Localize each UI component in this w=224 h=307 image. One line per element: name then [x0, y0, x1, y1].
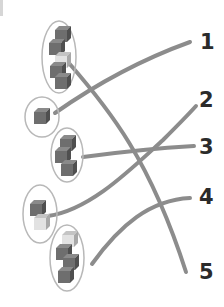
- line-stack-e-to-4[interactable]: [92, 198, 190, 264]
- stack-e-4-cubes[interactable]: [50, 225, 84, 291]
- label-number-5[interactable]: 5: [199, 262, 214, 283]
- stack-c-3-cubes[interactable]: [51, 128, 83, 182]
- stack-b-1-cube[interactable]: [25, 97, 59, 137]
- label-number-4[interactable]: 4: [199, 187, 214, 208]
- label-number-3[interactable]: 3: [199, 137, 214, 158]
- matching-diagram: [0, 0, 224, 307]
- label-number-2[interactable]: 2: [199, 90, 214, 111]
- stack-a-5-cubes[interactable]: [42, 21, 76, 93]
- label-number-1[interactable]: 1: [200, 32, 215, 53]
